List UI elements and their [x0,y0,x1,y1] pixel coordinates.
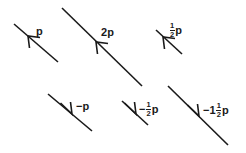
arrowhead-neg-one-and-half-p [188,104,200,116]
vector-label-neg-half-p-sign: − [139,103,145,115]
vector-label-neg-p-symbol: p [82,100,89,112]
arrowheads-group [28,36,199,116]
vector-canvas [0,0,246,153]
vector-label-neg-half-p-symbol: p [152,103,159,115]
arrowhead-neg-half-p [125,102,137,114]
vector-label-neg-half-p: −12p [139,101,159,117]
vector-label-neg-half-p-denominator: 2 [146,110,151,118]
vector-label-neg-one-and-half-p-symbol: p [222,104,229,116]
vector-diagram: p 2p 12p −p −12p −112p [0,0,246,153]
vector-label-p-symbol: p [36,25,43,37]
vector-label-neg-one-and-half-p-denominator: 2 [216,111,221,119]
vector-label-half-p: 12p [169,22,182,38]
vector-label-neg-one-and-half-p: −112p [203,102,229,118]
vector-label-neg-p: −p [76,101,89,112]
vector-label-neg-one-and-half-p-whole: 1 [209,104,215,116]
vector-label-p: p [36,26,43,37]
vector-line-2p [62,8,142,86]
vector-lines-group [14,8,228,145]
vector-label-half-p-symbol: p [175,24,182,36]
vector-label-2p-symbol: p [107,26,114,38]
vector-label-neg-one-and-half-p-fraction: 12 [216,102,221,118]
vector-label-2p: 2p [101,27,114,38]
vector-label-neg-half-p-fraction: 12 [146,101,151,117]
arrowhead-neg-p [61,102,73,114]
